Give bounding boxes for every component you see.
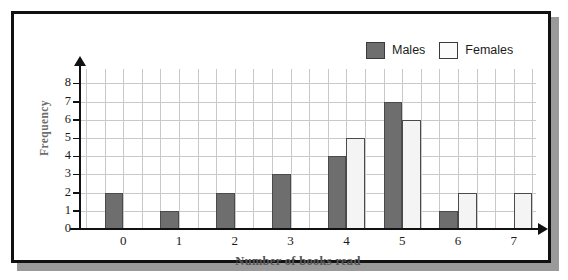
grid-line-vertical (477, 69, 478, 229)
bar-females-6 (458, 193, 477, 229)
grid-line-vertical (309, 69, 310, 229)
y-axis-tick-label: 1 (55, 203, 71, 218)
grid-line-horizontal (80, 138, 536, 139)
bar-males-3 (272, 174, 291, 229)
grid-line-vertical (291, 69, 292, 229)
x-axis-tick-label: 4 (335, 233, 357, 249)
y-axis-tick (73, 119, 79, 121)
bar-females-4 (346, 138, 365, 229)
grid-line-vertical (160, 69, 161, 229)
x-axis-tick-label: 5 (391, 233, 413, 249)
x-axis-tick-label: 7 (503, 233, 525, 249)
plot-area-wrapper: 012345678 01234567 Frequency Number of b… (14, 14, 568, 280)
y-axis-tick (73, 83, 79, 85)
grid-line-horizontal (80, 156, 536, 157)
y-axis-tick-label: 0 (55, 221, 71, 236)
grid-line-vertical (532, 69, 533, 229)
y-axis-title: Frequency (38, 78, 50, 178)
y-axis-tick (73, 156, 79, 158)
grid-line-vertical (495, 69, 496, 229)
grid-line-vertical (142, 69, 143, 229)
bar-males-2 (216, 193, 235, 229)
grid-line-horizontal (80, 174, 536, 175)
y-axis-tick (73, 174, 79, 176)
x-axis-line (70, 228, 540, 230)
y-axis-tick-label: 4 (55, 148, 71, 163)
grid-line-vertical (86, 69, 87, 229)
y-axis-tick (73, 210, 79, 212)
bar-males-0 (105, 193, 124, 229)
y-axis-tick (73, 138, 79, 140)
bar-females-7 (514, 193, 533, 229)
x-axis-tick-label: 6 (447, 233, 469, 249)
x-axis-tick-label: 0 (112, 233, 134, 249)
x-axis-tick-label: 3 (280, 233, 302, 249)
bar-males-5 (384, 102, 403, 229)
chart-figure: Males Females 012345678 01234567 Frequen… (0, 0, 568, 280)
x-axis-arrow-icon (538, 223, 548, 235)
grid-line-vertical (235, 69, 236, 229)
y-axis-tick-label: 5 (55, 130, 71, 145)
grid-line-horizontal (80, 120, 536, 121)
y-axis-tick-label: 8 (55, 75, 71, 90)
y-axis-tick-label: 2 (55, 185, 71, 200)
grid-line-vertical (179, 69, 180, 229)
grid-line-vertical (123, 69, 124, 229)
grid-line-vertical (365, 69, 366, 229)
y-axis-tick-label: 6 (55, 112, 71, 127)
grid-line-horizontal (80, 102, 536, 103)
grid-line-vertical (198, 69, 199, 229)
x-axis-title: Number of books read (14, 254, 568, 269)
chart-frame: Males Females 012345678 01234567 Frequen… (11, 11, 551, 263)
bar-males-4 (328, 156, 347, 229)
grid-line-vertical (439, 69, 440, 229)
y-axis-tick (73, 229, 79, 231)
x-axis-tick-label: 2 (224, 233, 246, 249)
y-axis-tick (73, 192, 79, 194)
y-axis-tick-label: 7 (55, 94, 71, 109)
x-axis-tick-label: 1 (168, 233, 190, 249)
plot-area (80, 69, 536, 229)
bar-females-5 (402, 120, 421, 229)
grid-line-vertical (421, 69, 422, 229)
bar-males-6 (439, 211, 458, 229)
y-axis-arrow-icon (74, 56, 86, 66)
y-axis-tick-label: 3 (55, 166, 71, 181)
y-axis-line (79, 64, 81, 230)
grid-line-vertical (253, 69, 254, 229)
bar-males-1 (160, 211, 179, 229)
y-axis-tick (73, 101, 79, 103)
grid-line-horizontal (80, 83, 536, 84)
